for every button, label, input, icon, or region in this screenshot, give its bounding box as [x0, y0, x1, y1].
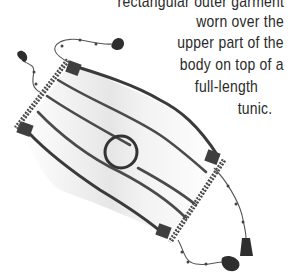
caption-line-2: worn over the: [196, 11, 284, 32]
tassel-left: [17, 51, 27, 62]
caption-line-3: upper part of the: [178, 32, 284, 53]
tassel-top: [111, 38, 124, 50]
tassel-bottom: [221, 256, 239, 271]
caption-line-4: body on top of a: [180, 54, 284, 75]
tassel-right: [240, 238, 253, 256]
garment-body: [22, 64, 220, 238]
caption-line-5: full-length: [195, 76, 258, 97]
caption-line-6: tunic.: [237, 98, 272, 119]
figure: rectangular outer garment worn over the …: [0, 0, 288, 277]
